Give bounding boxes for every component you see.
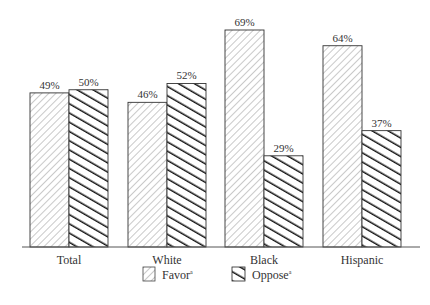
bar-favor-white <box>128 102 167 247</box>
bar-oppose-hispanic <box>362 131 401 247</box>
category-label-hispanic: Hispanic <box>341 253 384 267</box>
value-label-favor-total: 49% <box>39 79 59 91</box>
category-label-total: Total <box>57 253 82 267</box>
category-labels-group: TotalWhiteBlackHispanic <box>57 253 384 267</box>
value-label-oppose-total: 50% <box>78 76 98 88</box>
legend-label-oppose: Opposea <box>252 268 292 282</box>
category-label-black: Black <box>250 253 278 267</box>
legend-footnote-favor: a <box>190 269 193 275</box>
bar-oppose-total <box>69 90 108 247</box>
value-label-oppose-white: 52% <box>176 69 196 81</box>
value-label-favor-black: 69% <box>234 16 254 28</box>
bar-favor-total <box>30 93 69 247</box>
legend-footnote-oppose: a <box>289 269 292 275</box>
bar-favor-black <box>225 30 264 247</box>
legend-swatch-oppose <box>232 267 245 281</box>
value-label-favor-hispanic: 64% <box>332 32 352 44</box>
bar-favor-hispanic <box>323 46 362 247</box>
legend-label-favor: Favora <box>162 268 193 282</box>
chart: 49%50%46%52%69%29%64%37% TotalWhiteBlack… <box>0 0 430 305</box>
value-label-oppose-hispanic: 37% <box>371 117 391 129</box>
bars-group <box>30 30 401 247</box>
value-label-oppose-black: 29% <box>273 142 293 154</box>
bar-oppose-white <box>167 83 206 247</box>
legend-item-favor: Favora <box>143 267 193 282</box>
bar-oppose-black <box>264 156 303 247</box>
value-label-favor-white: 46% <box>137 88 157 100</box>
legend: Favora Opposea <box>143 267 292 282</box>
legend-item-oppose: Opposea <box>232 267 292 282</box>
legend-swatch-favor <box>143 267 155 281</box>
category-label-white: White <box>152 253 181 267</box>
